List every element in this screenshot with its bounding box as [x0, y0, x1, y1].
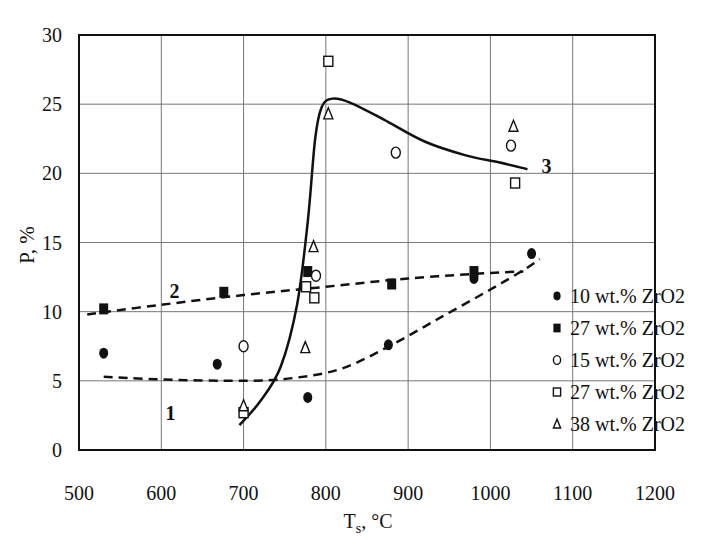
x-tick-label: 1200 [635, 482, 675, 504]
y-tick-label: 0 [52, 439, 62, 461]
data-point-open-triangle [301, 342, 310, 353]
data-point-open-square [310, 293, 319, 303]
fit-curves [87, 98, 540, 425]
data-point-filled-circle [213, 359, 222, 370]
data-point-filled-square [219, 287, 228, 298]
filled-circle-icon [548, 287, 566, 305]
y-tick-label: 30 [42, 24, 62, 46]
open-triangle-icon [548, 415, 566, 433]
data-point-filled-square [387, 279, 396, 290]
data-point-filled-circle [527, 248, 536, 259]
legend-label: 38 wt.% ZrO2 [570, 413, 685, 436]
x-tick-label: 800 [311, 482, 341, 504]
data-point-open-square [511, 178, 520, 188]
legend-item: 15 wt.% ZrO2 [548, 344, 685, 376]
y-tick-label: 20 [42, 162, 62, 184]
data-point-open-circle [391, 147, 400, 158]
legend-label: 27 wt.% ZrO2 [570, 381, 685, 404]
x-tick-label: 1100 [553, 482, 592, 504]
legend-item: 27 wt.% ZrO2 [548, 312, 685, 344]
curve-3 [239, 98, 527, 425]
x-tick-label: 900 [393, 482, 423, 504]
data-point-open-triangle [239, 400, 248, 411]
y-tick-label: 25 [42, 93, 62, 115]
curve-2 [87, 272, 523, 315]
legend-item: 10 wt.% ZrO2 [548, 280, 685, 312]
legend-item: 27 wt.% ZrO2 [548, 376, 685, 408]
y-tick-label: 15 [42, 232, 62, 254]
data-point-filled-circle [303, 392, 312, 403]
x-tick-label: 600 [146, 482, 176, 504]
y-tick-label: 10 [42, 301, 62, 323]
legend-label: 15 wt.% ZrO2 [570, 349, 685, 372]
y-tick-label: 5 [52, 370, 62, 392]
data-point-open-triangle [324, 108, 333, 119]
y-axis-label: P, % [15, 226, 39, 263]
curve-label-2: 2 [170, 280, 180, 302]
x-tick-label: 1000 [470, 482, 510, 504]
legend-label: 10 wt.% ZrO2 [570, 285, 685, 308]
data-point-open-square [302, 282, 311, 292]
data-point-filled-circle [99, 348, 108, 359]
data-point-filled-square [99, 303, 108, 314]
data-points [99, 56, 536, 417]
curve-label-3: 3 [541, 155, 551, 177]
data-point-open-square [324, 56, 333, 66]
data-point-open-circle [311, 270, 320, 281]
curve-label-1: 1 [165, 402, 175, 424]
data-point-open-circle [239, 341, 248, 352]
x-tick-label: 500 [64, 482, 94, 504]
open-circle-icon [548, 351, 566, 369]
x-tick-label: 700 [229, 482, 259, 504]
x-axis-ticks: 500600700800900100011001200 [64, 482, 675, 504]
filled-square-icon [548, 319, 566, 337]
data-point-open-circle [507, 140, 516, 151]
legend-item: 38 wt.% ZrO2 [548, 408, 685, 440]
x-axis-label: Ts, °C [343, 510, 392, 536]
legend-label: 27 wt.% ZrO2 [570, 317, 685, 340]
data-point-filled-circle [384, 339, 393, 350]
data-point-filled-square [469, 266, 478, 277]
data-point-open-triangle [509, 120, 518, 131]
legend: 10 wt.% ZrO227 wt.% ZrO215 wt.% ZrO227 w… [548, 280, 685, 440]
chart-canvas: 051015202530 500600700800900100011001200… [0, 0, 709, 549]
open-square-icon [548, 383, 566, 401]
y-axis-ticks: 051015202530 [42, 24, 62, 461]
